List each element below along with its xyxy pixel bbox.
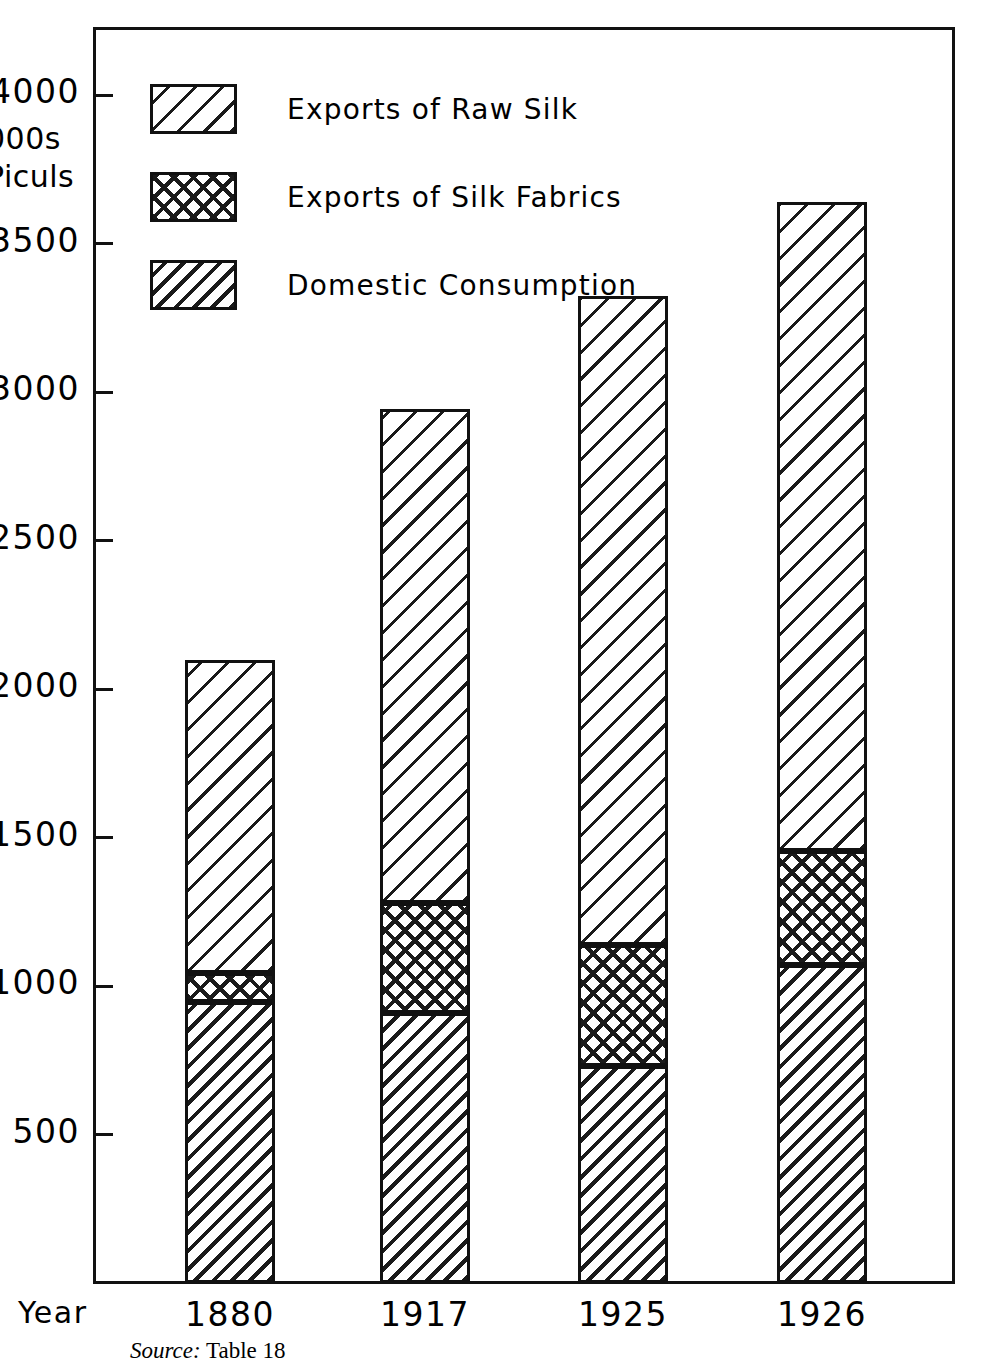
bar-segment [380,409,470,903]
y-axis-tick [93,836,113,839]
legend-label-raw-silk: Exports of Raw Silk [287,93,578,126]
bar-segment [185,973,275,1003]
x-axis-tick-label: 1917 [350,1295,500,1334]
bar-segment [777,965,867,1283]
x-axis-tick-label: 1925 [548,1295,698,1334]
y-axis-tick [93,539,113,542]
bar-segment [185,1002,275,1283]
bar-segment [380,903,470,1013]
x-axis-tick-label: 1926 [747,1295,897,1334]
y-axis-tick-label: 4000 [0,75,80,108]
legend-swatch-silk-fabrics [150,172,237,222]
bar-segment [185,660,275,973]
legend-label-silk-fabrics: Exports of Silk Fabrics [287,181,622,214]
y-axis-tick-label: 500 [0,1115,80,1148]
bar-segment [578,945,668,1067]
legend-swatch-domestic-consumption [150,260,237,310]
bar-segment [578,296,668,945]
y-axis-tick-label: 1500 [0,818,80,851]
source-note-text: Table 18 [201,1338,286,1363]
y-axis-tick [93,94,113,97]
y-axis-tick-label: 1000 [0,966,80,999]
source-note-lead: Source: [130,1338,201,1363]
source-note: Source: Table 18 [130,1338,286,1364]
x-axis-tick-label: 1880 [155,1295,305,1334]
bar-segment [777,851,867,965]
y-axis-tick-label: 2500 [0,521,80,554]
bar-segment [777,202,867,851]
y-axis-tick [93,242,113,245]
x-axis-title: Year [18,1295,88,1330]
y-axis-tick-label: 2000 [0,669,80,702]
y-axis-tick [93,688,113,691]
legend-item-raw-silk: Exports of Raw Silk [150,73,670,145]
y-axis-tick [93,1133,113,1136]
legend-item-silk-fabrics: Exports of Silk Fabrics [150,161,670,233]
y-axis-tick-label: 3000 [0,372,80,405]
silk-production-stacked-bar-chart: 000s Piculs 4000350030002500200015001000… [0,0,983,1368]
y-axis-tick [93,985,113,988]
y-axis-tick-label: 3500 [0,224,80,257]
bar-segment [380,1013,470,1283]
y-axis-tick [93,391,113,394]
bar-segment [578,1066,668,1283]
legend-swatch-raw-silk [150,84,237,134]
